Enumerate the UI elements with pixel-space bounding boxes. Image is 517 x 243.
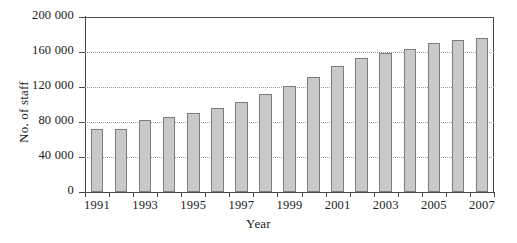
bar: [476, 38, 489, 192]
bar-series: [85, 17, 494, 192]
x-axis-tick-label: 2001: [315, 198, 361, 213]
bar: [307, 77, 320, 193]
x-axis-tick: [422, 192, 423, 197]
x-axis-tick: [398, 192, 399, 197]
bar: [211, 108, 224, 192]
x-axis-tick: [470, 192, 471, 197]
y-axis-tick-label: 0: [68, 183, 74, 198]
bar: [91, 129, 104, 192]
y-axis-tick-label: 120 000: [32, 78, 74, 93]
y-axis-tick-label: 200 000: [32, 8, 74, 23]
x-axis-line: [84, 192, 495, 193]
y-axis-title: No. of staff: [16, 47, 32, 177]
x-axis-tick: [494, 192, 495, 197]
x-axis-tick-label: 2003: [363, 198, 409, 213]
bar: [379, 53, 392, 192]
y-axis-tick-label: 80 000: [38, 113, 74, 128]
x-axis-tick: [253, 192, 254, 197]
x-axis-tick-label: 1993: [122, 198, 168, 213]
x-axis-title: Year: [0, 216, 517, 232]
x-axis-tick: [85, 192, 86, 197]
x-axis-tick: [157, 192, 158, 197]
x-axis-tick: [302, 192, 303, 197]
x-axis-tick: [326, 192, 327, 197]
y-axis-tick-label: 160 000: [32, 43, 74, 58]
bar: [259, 94, 272, 192]
x-axis-tick: [350, 192, 351, 197]
x-axis-tick: [446, 192, 447, 197]
bar-chart: No. of staff 040 00080 000120 000160 000…: [0, 0, 517, 243]
bar: [452, 40, 465, 192]
y-axis-tick-label: 40 000: [38, 148, 74, 163]
x-axis-tick-label: 1991: [74, 198, 120, 213]
x-axis-tick-label: 1995: [170, 198, 216, 213]
bar: [235, 102, 248, 192]
bar: [428, 43, 441, 192]
x-axis-tick: [374, 192, 375, 197]
x-axis-tick-label: 2007: [459, 198, 505, 213]
bar: [139, 120, 152, 192]
x-axis-tick: [133, 192, 134, 197]
bar: [404, 49, 417, 192]
x-axis-tick: [277, 192, 278, 197]
x-axis-tick: [181, 192, 182, 197]
bar: [355, 58, 368, 192]
bar: [163, 117, 176, 192]
x-axis-tick-label: 2005: [411, 198, 457, 213]
bar: [115, 129, 128, 192]
bar: [283, 86, 296, 192]
x-axis-tick: [229, 192, 230, 197]
bar: [331, 66, 344, 192]
x-axis-tick: [205, 192, 206, 197]
bar: [187, 113, 200, 192]
x-axis-tick-label: 1997: [218, 198, 264, 213]
x-axis-tick: [109, 192, 110, 197]
x-axis-tick-label: 1999: [267, 198, 313, 213]
